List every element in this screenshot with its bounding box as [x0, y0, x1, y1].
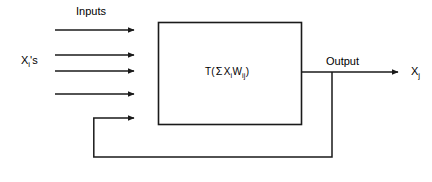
formula-input-var: X [224, 66, 231, 77]
diagram-svg [0, 0, 432, 182]
diagram-canvas: Inputs Xi's T(ΣXiWij) Output Xj [0, 0, 432, 182]
output-signal-subscript: j [418, 71, 420, 80]
feedback-path [94, 72, 332, 157]
output-label: Output [326, 56, 359, 67]
output-signal-label: Xj [411, 66, 420, 77]
inputs-label: Inputs [76, 6, 106, 17]
formula-weight-var: W [232, 66, 242, 77]
formula-close-paren: ) [246, 66, 250, 77]
transfer-function-formula: T(ΣXiWij) [205, 66, 249, 77]
input-signals-possessive: 's [30, 54, 38, 66]
input-signals-label: Xi's [21, 55, 38, 66]
summation-icon: Σ [215, 65, 224, 77]
